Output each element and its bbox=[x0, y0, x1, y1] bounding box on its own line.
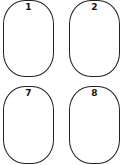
card-1: 1 bbox=[3, 0, 54, 77]
card-number: 1 bbox=[4, 2, 53, 12]
card-8: 8 bbox=[69, 86, 120, 164]
card-number: 7 bbox=[4, 88, 53, 98]
card-number: 8 bbox=[70, 88, 119, 98]
card-number: 2 bbox=[70, 2, 119, 12]
card-2: 2 bbox=[69, 0, 120, 77]
card-7: 7 bbox=[3, 86, 54, 164]
